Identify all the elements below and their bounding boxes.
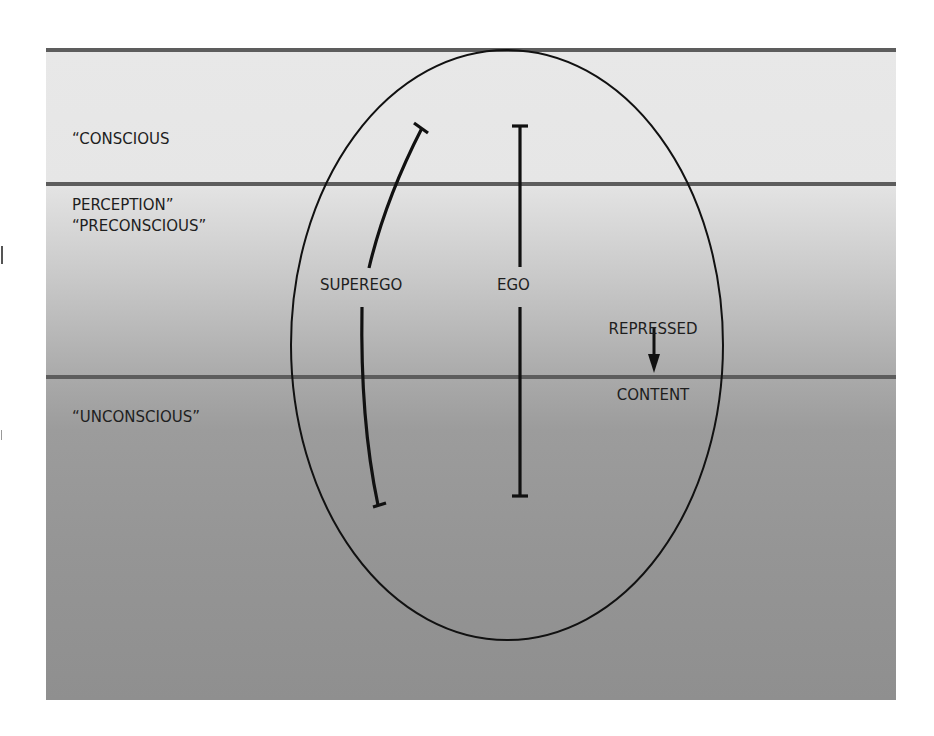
repressed-label-line1: REPRESSED	[598, 318, 708, 340]
structure-drawing	[0, 0, 934, 736]
ego-label: EGO	[497, 274, 530, 296]
superego-label: SUPEREGO	[320, 274, 402, 296]
repressed-content-label: REPRESSED CONTENT	[598, 274, 708, 450]
repressed-label-line2: CONTENT	[598, 384, 708, 406]
superego-bottom-tick	[373, 503, 386, 507]
superego-arc-lower	[362, 307, 378, 505]
diagram-canvas: “CONSCIOUS PERCEPTION” “PRECONSCIOUS” “U…	[0, 0, 934, 736]
superego-arc-upper	[369, 128, 422, 268]
